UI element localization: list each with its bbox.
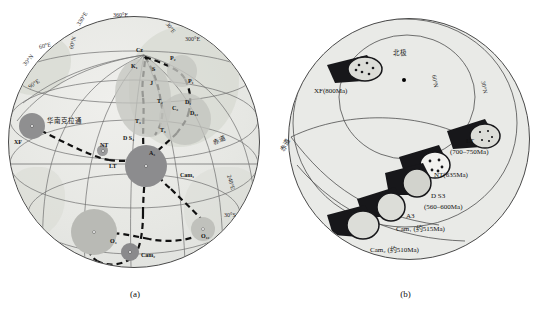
panel-b-caption: (b) (270, 289, 541, 299)
north-pole-label: 北极 (393, 50, 407, 57)
pole-center-dot (202, 228, 204, 230)
pole-label-D12: D₁₂ (190, 110, 198, 116)
pole-label-Cz: Cz (136, 47, 143, 53)
block-label-A3: A3 (406, 213, 415, 220)
pole-label-O3: O₃ (110, 238, 116, 244)
pole-label-LT: LT (109, 163, 116, 169)
longitude-label: 300°E (185, 36, 200, 42)
pole-label-J: J (150, 80, 153, 86)
longitude-label: 360°E (113, 12, 128, 18)
pole-label-T1: T₁ (160, 127, 166, 133)
pole-label-A3: A₃ (149, 150, 155, 156)
block-label-DS3: D S3 (431, 193, 445, 200)
figure-root: 360°E 330°E 30°E 300°E 60°E 90°E 240°E 6… (0, 0, 541, 309)
pole-label-Cam2: Cam₂ (141, 252, 155, 258)
pole-label-D1: D₁ (185, 99, 191, 105)
pole-label-P2: P₂ (170, 55, 175, 61)
block-label-LT: LT (466, 138, 474, 145)
pole-label-K1: K₁ (131, 63, 137, 69)
block-label-Cam2: Cam₂ (约510Ma) (370, 247, 419, 254)
pole-center-dot (31, 125, 33, 127)
block-sublabel-LT: (700–750Ma) (450, 149, 489, 156)
block-label-XF: XF(800Ma) (314, 88, 347, 95)
pole-center-dot (102, 150, 104, 152)
block-label-NT: NT(635Ma) (434, 172, 468, 179)
craton-region-label: 华南克拉通 (47, 118, 82, 125)
pole-label-XF: XF (14, 139, 22, 145)
globe-b-sphere (288, 18, 530, 260)
pole-label-Cam1: Cam₁ (180, 172, 194, 178)
pole-label-O12: O₁₂ (201, 233, 209, 239)
pole-center-dot (145, 165, 147, 167)
pole-label-S: S (152, 66, 155, 72)
panel-b: 北极 赤道 60°N 30°N XF(800Ma) LT (700–750Ma)… (270, 0, 541, 309)
pole-label-C3: C₃ (172, 105, 178, 111)
pole-label-T3: T₃ (135, 118, 141, 124)
pole-center-dot (93, 231, 95, 233)
block-label-Cam1: Cam₁ (约515Ma) (396, 226, 445, 233)
continental-blocks (289, 19, 529, 259)
latitude-label: 30°S (224, 212, 236, 218)
pole-label-NT: NT (100, 142, 108, 148)
pole-center-dot (129, 251, 131, 253)
pole-label-T2: T₂ (157, 98, 163, 104)
pole-label-DS3: D S₃ (123, 135, 134, 141)
panel-a: 360°E 330°E 30°E 300°E 60°E 90°E 240°E 6… (0, 0, 270, 309)
panel-a-caption: (a) (0, 289, 270, 299)
block-sublabel-DS3: (560–600Ma) (424, 204, 463, 211)
pole-label-P1: P₁ (188, 78, 193, 84)
